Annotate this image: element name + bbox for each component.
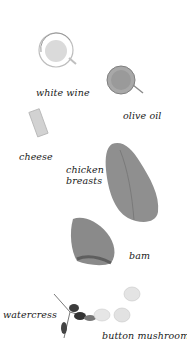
chicken-breasts-image — [104, 140, 164, 225]
cheese-image — [24, 108, 56, 140]
ham-image — [67, 215, 117, 267]
button-mushrooms-image — [92, 285, 147, 327]
olive-oil-label: olive oil — [123, 110, 162, 121]
chicken-breasts-label-line1: chicken — [66, 164, 104, 175]
cheese-label: cheese — [19, 151, 53, 162]
watercress-image — [50, 292, 96, 342]
white-wine-label: white wine — [36, 87, 90, 98]
ham-label: bam — [129, 250, 150, 261]
button-mushrooms-label: button mushrooms — [102, 330, 187, 341]
olive-oil-image — [103, 63, 145, 99]
watercress-label: watercress — [3, 309, 57, 320]
white-wine-image — [36, 30, 80, 74]
chicken-breasts-label-line2: breasts — [66, 175, 102, 186]
